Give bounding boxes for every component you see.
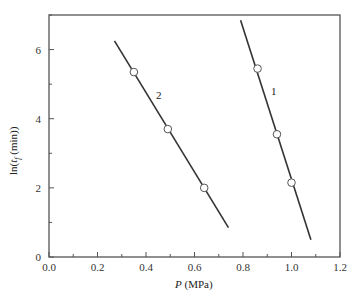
y-tick-label: 0	[36, 251, 42, 263]
series-1-data-point	[273, 130, 281, 138]
x-tick-label: 1.2	[333, 261, 347, 273]
x-tick-label: 0.8	[236, 261, 250, 273]
series-label-1: 1	[271, 85, 277, 97]
series-2-data-point	[130, 68, 138, 76]
y-tick-label: 2	[36, 182, 42, 194]
series-label-2: 2	[156, 89, 162, 101]
x-axis-label-unit: (MPa)	[182, 278, 213, 291]
plot-frame	[49, 15, 340, 257]
y-tick-label: 4	[36, 113, 42, 125]
series-2-data-point	[200, 184, 208, 192]
x-axis-label: P (MPa)	[174, 278, 213, 291]
series-1-fit-line	[241, 20, 311, 240]
y-axis-label: ln(tf (min))	[7, 126, 22, 175]
series-markers	[130, 65, 295, 192]
series-lines	[114, 20, 310, 240]
chart: 0.00.20.40.60.81.01.2 0246 1 2 P (MPa) l…	[0, 0, 363, 300]
x-axis-ticks: 0.00.20.40.60.81.01.2	[42, 252, 347, 273]
series-2-data-point	[164, 125, 172, 133]
x-tick-label: 0.2	[91, 261, 105, 273]
y-axis-ticks: 0246	[36, 15, 55, 263]
series-1-data-point	[254, 65, 262, 73]
series-1-data-point	[288, 179, 296, 187]
y-axis-label-prefix: ln(	[7, 162, 20, 175]
x-tick-label: 0.4	[139, 261, 153, 273]
y-axis-label-suffix: (min))	[7, 126, 20, 157]
x-tick-label: 0.0	[42, 261, 56, 273]
x-tick-label: 0.6	[188, 261, 202, 273]
y-tick-label: 6	[36, 44, 42, 56]
x-tick-label: 1.0	[285, 261, 299, 273]
